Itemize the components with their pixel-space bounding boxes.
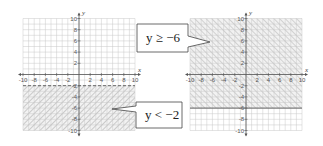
x-tick-label: 4 xyxy=(100,77,104,83)
x-axis-label: x xyxy=(304,66,309,74)
x-tick-label: -2 xyxy=(232,77,238,83)
y-tick-label: 10 xyxy=(237,16,244,22)
callout-label-right: y ≥ −6 xyxy=(146,30,180,45)
inequality-graphs: -10-8-6-4-2246810108642-2-4-6-8-10xy -10… xyxy=(0,0,323,146)
x-tick-label: -8 xyxy=(32,77,38,83)
left-graph-y-less-than-neg2: -10-8-6-4-2246810108642-2-4-6-8-10xy xyxy=(18,9,142,137)
y-tick-label: -10 xyxy=(68,128,77,134)
y-tick-label: -2 xyxy=(239,83,245,89)
callout-label-left: y < −2 xyxy=(145,107,179,122)
x-tick-label: -4 xyxy=(221,77,227,83)
x-tick-label: -8 xyxy=(199,77,205,83)
x-tick-label: 8 xyxy=(122,77,126,83)
x-tick-label: 10 xyxy=(299,77,306,83)
x-tick-label: 10 xyxy=(132,77,139,83)
y-tick-label: -8 xyxy=(239,116,245,122)
y-tick-label: -6 xyxy=(72,105,78,111)
x-tick-label: -6 xyxy=(210,77,216,83)
y-tick-label: 10 xyxy=(70,16,77,22)
y-tick-label: -8 xyxy=(72,116,78,122)
x-tick-label: -2 xyxy=(65,77,71,83)
y-arrow-icon xyxy=(245,13,248,16)
y-axis-label: y xyxy=(248,9,253,17)
x-tick-label: 6 xyxy=(111,77,115,83)
x-tick-label: -10 xyxy=(186,77,195,83)
y-arrow-down-icon xyxy=(78,134,81,137)
y-tick-label: -4 xyxy=(239,94,245,100)
x-tick-label: -6 xyxy=(43,77,49,83)
y-arrow-icon xyxy=(78,13,81,16)
y-axis-label: y xyxy=(81,9,86,17)
x-tick-label: 2 xyxy=(89,77,93,83)
x-tick-label: -4 xyxy=(54,77,60,83)
x-axis-label: x xyxy=(137,66,142,74)
right-graph-y-geq-neg6: -10-8-6-4-2246810108642-2-4-6-8-10xy xyxy=(185,9,309,137)
y-tick-label: -10 xyxy=(235,128,244,134)
x-tick-label: -10 xyxy=(19,77,28,83)
y-tick-label: -4 xyxy=(72,94,78,100)
y-arrow-down-icon xyxy=(245,134,248,137)
